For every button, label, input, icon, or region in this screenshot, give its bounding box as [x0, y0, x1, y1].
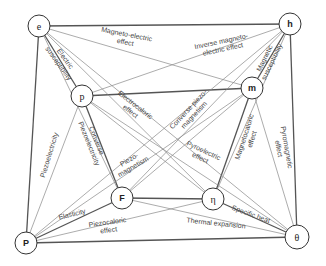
edge-e-theta: [39, 26, 297, 237]
edge-e-h: [39, 24, 290, 26]
edge-label: Inverse magneto-electric effect: [194, 32, 251, 58]
node-label: η: [210, 194, 215, 205]
node-label: h: [287, 19, 293, 29]
edge-label: Pyroelectriceffect: [182, 139, 222, 168]
node-theta: θ: [285, 225, 309, 249]
edge-label: ConversePiezoelectricity: [76, 118, 109, 168]
node-p: p: [71, 85, 93, 107]
node-eta: η: [202, 188, 224, 210]
edge-label: Electrocaloriceffect: [112, 89, 155, 127]
edge-h-theta: [290, 24, 297, 237]
node-e: e: [28, 15, 50, 37]
edge-label: Thermal expansion: [186, 216, 246, 230]
edge-label: Piezoelectricity: [39, 131, 60, 178]
node-label: F: [119, 193, 125, 203]
edge-F-eta: [122, 198, 213, 199]
edge-label: Magneticsusceptibility: [253, 38, 285, 81]
node-label: θ: [295, 232, 300, 243]
edge-label: Magnetocaloriceffect: [234, 113, 263, 163]
node-label: m: [248, 83, 256, 93]
node-P: P: [15, 232, 37, 254]
heckmann-diagram: Magneto-electriceffectInverse magneto-el…: [0, 0, 326, 266]
edge-label: Piezocaloriceffect: [88, 216, 128, 236]
node-F: F: [111, 187, 133, 209]
edge-e-P: [26, 26, 39, 243]
edge-label: Magneto-electriceffect: [99, 26, 153, 51]
node-h: h: [279, 13, 301, 35]
edge-P-theta: [26, 237, 297, 243]
edge-label: Elasticity: [58, 207, 87, 222]
edge-p-m: [82, 88, 252, 96]
node-m: m: [241, 77, 263, 99]
node-label: e: [37, 21, 42, 32]
node-label: P: [23, 238, 29, 248]
node-label: p: [80, 91, 85, 102]
